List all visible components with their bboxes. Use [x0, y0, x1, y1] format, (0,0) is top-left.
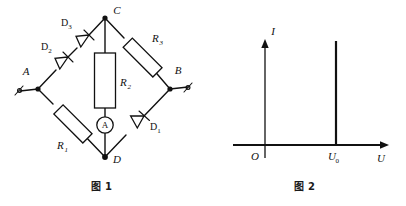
resistor-r1: [54, 105, 92, 143]
diode-d2-triangle: [55, 57, 68, 69]
figure-1-caption: 图 1: [0, 178, 203, 193]
circuit-diagram: A A B C D D 3 D 2 D 1: [0, 0, 203, 176]
origin-label: O: [251, 150, 259, 162]
figure-2-panel: I U O U 0 图 2: [203, 0, 406, 206]
node-label-b: B: [175, 64, 182, 76]
label-d3: D 3: [61, 17, 72, 31]
iv-characteristic-chart: I U O U 0: [203, 0, 406, 176]
x-axis: [233, 141, 389, 149]
x-axis-arrowhead: [380, 141, 389, 149]
label-r1-sub: 1: [65, 146, 69, 154]
figure-2-caption: 图 2: [203, 178, 406, 193]
node-dot-b: [167, 86, 172, 91]
terminal-a: [15, 86, 38, 95]
label-r2-main: R: [119, 76, 127, 88]
x-axis-label: U: [377, 152, 386, 164]
node-dot-a: [35, 86, 40, 91]
label-r1: R 1: [56, 139, 68, 154]
terminal-b: [170, 83, 192, 92]
label-d1-sub: 1: [157, 127, 161, 135]
ammeter: A: [97, 117, 113, 133]
label-r3: R 3: [151, 32, 164, 47]
label-d2-main: D: [41, 41, 48, 52]
node-label-a: A: [22, 65, 30, 77]
wire-a-to-r1: [38, 89, 53, 104]
label-d3-sub: 3: [68, 23, 72, 31]
wire-d2-to-d3: [68, 48, 77, 57]
diode-d1-triangle: [131, 116, 144, 128]
figure-sheet: A A B C D D 3 D 2 D 1: [0, 0, 406, 206]
wire-d1-to-b: [144, 89, 170, 116]
resistor-r2: [95, 53, 116, 108]
label-r1-main: R: [56, 139, 64, 151]
label-r2-sub: 2: [128, 83, 132, 91]
label-d1: D 1: [150, 121, 161, 135]
label-d2: D 2: [41, 41, 52, 55]
y-axis-arrowhead: [261, 39, 268, 48]
diode-d3-triangle: [76, 35, 89, 47]
node-dot-d: [102, 154, 108, 160]
y-axis-label: I: [270, 25, 276, 37]
wire-d3-to-c: [89, 18, 105, 35]
node-dot-c: [102, 15, 107, 20]
wire-terminal-a-lead: [20, 89, 38, 91]
node-label-d: D: [112, 153, 121, 165]
node-label-c: C: [113, 4, 121, 16]
x-tick-u0-sub: 0: [336, 157, 340, 165]
label-r3-main: R: [151, 32, 159, 44]
wire-terminal-b-lead: [170, 87, 188, 89]
label-d3-main: D: [61, 17, 68, 28]
wire-c-to-r3: [105, 18, 124, 38]
label-r2: R 2: [119, 76, 132, 91]
wire-a-to-d2: [38, 70, 56, 89]
label-r3-sub: 3: [159, 39, 164, 47]
figure-1-panel: A A B C D D 3 D 2 D 1: [0, 0, 203, 206]
resistor-r1-body: [54, 105, 92, 143]
label-d1-main: D: [150, 121, 157, 132]
resistor-r2-body: [95, 53, 116, 108]
x-tick-label-u0: U 0: [328, 150, 340, 165]
y-axis: [261, 39, 268, 158]
label-d2-sub: 2: [48, 47, 52, 55]
ammeter-label: A: [102, 120, 109, 130]
